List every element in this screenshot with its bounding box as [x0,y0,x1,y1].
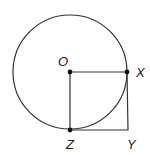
geometry-diagram: O X Z Y [0,0,150,155]
point-o [68,70,73,75]
point-x [125,70,130,75]
label-y: Y [127,137,137,152]
label-x: X [135,65,146,80]
label-z: Z [65,137,75,152]
point-z [68,128,73,133]
label-o: O [58,54,68,69]
